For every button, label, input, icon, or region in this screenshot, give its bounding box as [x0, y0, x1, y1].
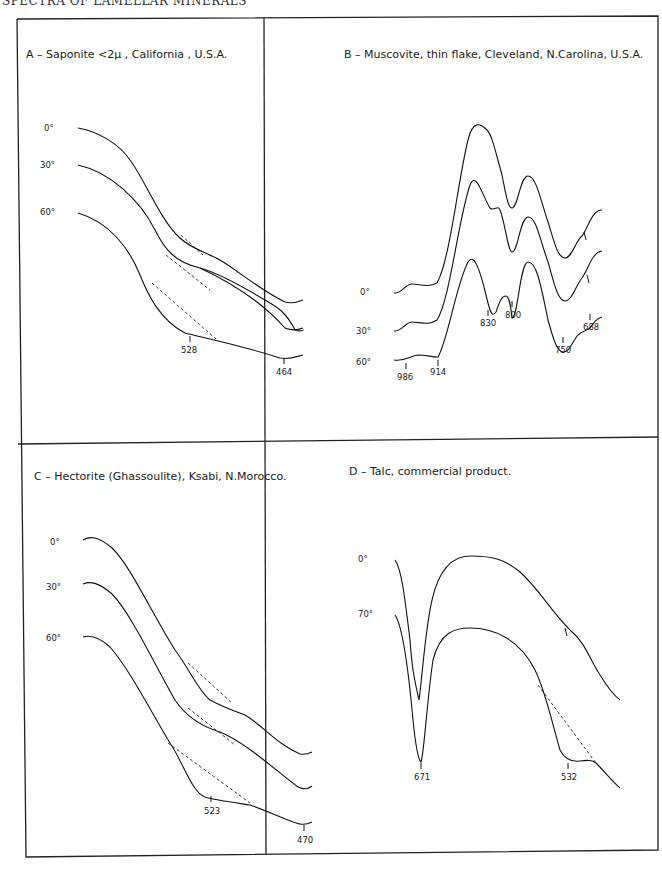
peak-label-688: 688 — [583, 322, 599, 332]
angle-label-60: 60° — [46, 633, 61, 643]
baseline-70-deg — [538, 685, 596, 763]
peak-label-532: 532 — [561, 772, 577, 782]
peak-label-523: 523 — [204, 806, 220, 816]
angle-label-0: 0° — [360, 287, 370, 297]
baseline-0-deg — [181, 235, 203, 255]
peak-label-750: 750 — [555, 345, 571, 355]
baseline-0-deg — [188, 663, 232, 703]
panel-d: D – Talc, commercial product. 0° 70° 671… — [349, 465, 620, 788]
baseline-60-deg — [152, 283, 216, 339]
angle-label-60: 60° — [40, 207, 55, 217]
spectrum-30-deg-tail — [200, 268, 303, 330]
outer-frame — [17, 16, 658, 857]
angle-label-0: 0° — [44, 123, 54, 133]
angle-label-0: 0° — [50, 537, 60, 547]
spectrum-30-deg — [394, 180, 602, 331]
spectrum-30-deg — [83, 583, 312, 789]
angle-label-70: 70° — [358, 609, 373, 619]
spectrum-30-deg — [78, 165, 303, 331]
peak-label-671: 671 — [414, 772, 430, 782]
peak-label-528: 528 — [181, 345, 197, 355]
baseline-30-deg — [188, 708, 235, 745]
spectrum-0-deg — [394, 125, 602, 293]
horizontal-divider — [18, 437, 658, 444]
vertical-divider — [264, 18, 266, 854]
panel-a: A – Saponite <2μ , California , U.S.A. 0… — [26, 48, 303, 377]
panel-frames — [17, 16, 658, 857]
figure: A – Saponite <2μ , California , U.S.A. 0… — [0, 0, 662, 881]
peak-label-986: 986 — [397, 372, 413, 382]
panel-c-title: C – Hectorite (Ghassoulite), Ksabi, N.Mo… — [34, 470, 286, 483]
spectrum-70-deg — [395, 615, 620, 788]
marker-tick-0-deg — [565, 628, 567, 636]
angle-label-60: 60° — [356, 357, 371, 367]
peak-label-914: 914 — [430, 367, 446, 377]
spectrum-0-deg — [78, 128, 303, 303]
angle-label-30: 30° — [40, 160, 55, 170]
peak-label-830: 830 — [480, 318, 496, 328]
panel-c: C – Hectorite (Ghassoulite), Ksabi, N.Mo… — [34, 470, 313, 845]
spectrum-60-deg — [83, 636, 312, 824]
spectrum-0-deg — [395, 556, 620, 700]
angle-label-0: 0° — [358, 554, 368, 564]
peak-label-470: 470 — [297, 835, 313, 845]
panel-d-title: D – Talc, commercial product. — [349, 465, 511, 478]
panel-b-title: B – Muscovite, thin flake, Cleveland, N.… — [344, 48, 643, 61]
marker-tick-30-deg — [587, 275, 589, 283]
baseline-30-deg — [166, 255, 210, 290]
panel-b: B – Muscovite, thin flake, Cleveland, N.… — [344, 48, 643, 382]
baseline-60-deg — [168, 743, 250, 803]
panel-a-title: A – Saponite <2μ , California , U.S.A. — [26, 48, 227, 61]
peak-label-800: 800 — [505, 310, 521, 320]
peak-label-464: 464 — [276, 367, 292, 377]
marker-tick-0-deg — [584, 232, 586, 240]
angle-label-30: 30° — [356, 326, 371, 336]
angle-label-30: 30° — [46, 582, 61, 592]
